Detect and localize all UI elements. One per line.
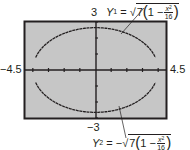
calculator-graph-figure: 3 −3 −4.5 4.5 Y1 = √ 7 ( 1 − x2 16 ) Y2 … <box>0 0 190 150</box>
y1-den: 16 <box>165 13 173 20</box>
y2-radicand: 7 ( 1 − x2 16 ) <box>128 134 171 150</box>
y1-num: x2 <box>164 4 172 13</box>
y-max-label: 3 <box>91 7 97 18</box>
y2-den: 16 <box>157 144 165 150</box>
y1-num-exp: 2 <box>169 4 172 10</box>
x-max-label: 4.5 <box>170 64 185 75</box>
y1-equals: = <box>120 6 126 18</box>
y1-equation: Y1 = √ 7 ( 1 − x2 16 ) <box>106 3 179 20</box>
y2-num-exp: 2 <box>161 135 164 141</box>
y1-radicand: 7 ( 1 − x2 16 ) <box>136 3 179 20</box>
y2-equation: Y2 = − √ 7 ( 1 − x2 16 ) <box>92 134 171 150</box>
y2-index: 2 <box>99 137 103 149</box>
left-paren: ( <box>135 137 140 150</box>
y2-num: x2 <box>157 135 165 144</box>
y2-inner: 1 − <box>140 137 156 149</box>
y1-fraction: x2 16 <box>164 4 172 20</box>
y2-var: Y <box>92 137 99 149</box>
y1-inner: 1 − <box>148 6 164 18</box>
right-paren: ) <box>174 6 179 19</box>
y2-equals: = <box>106 137 112 149</box>
left-paren: ( <box>143 6 148 19</box>
y1-index: 1 <box>113 6 117 18</box>
x-min-label: −4.5 <box>0 64 22 75</box>
right-paren: ) <box>166 137 171 150</box>
y2-fraction: x2 16 <box>157 135 165 150</box>
y-min-label: −3 <box>87 122 100 133</box>
y1-var: Y <box>106 6 113 18</box>
